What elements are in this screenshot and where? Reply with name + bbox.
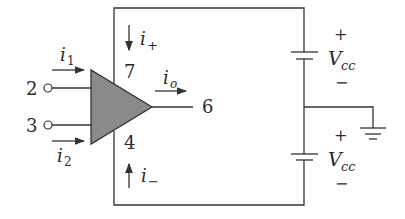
svg-text:i: i [141,165,147,186]
terminal-6-label: 6 [202,96,213,117]
svg-text:−: − [335,73,348,92]
battery-top-icon [291,52,318,59]
svg-text:1: 1 [67,54,75,68]
terminal-3-label: 3 [26,115,37,136]
svg-text:o: o [170,77,177,91]
svg-text:cc: cc [341,58,356,73]
svg-text:+: + [334,126,347,145]
label-vcc-top: + V cc − [328,25,356,92]
terminal-2-label: 2 [26,78,37,99]
svg-text:i: i [57,145,63,166]
label-i2: i 2 [57,145,72,169]
svg-text:i: i [60,44,66,65]
opamp-circuit-diagram: 2 3 7 4 6 i 1 i 2 i + i − i o + V cc − +… [0,0,405,219]
terminal-2-node [44,84,52,92]
battery-bottom-icon [291,154,318,160]
label-i1: i 1 [60,44,75,68]
svg-text:+: + [334,25,347,44]
label-i-minus: i − [141,165,159,189]
terminal-3-node [44,121,52,129]
svg-text:cc: cc [341,159,356,174]
svg-text:i: i [163,67,169,88]
svg-text:+: + [147,38,158,53]
terminal-4-label: 4 [124,132,135,153]
opamp-icon [91,70,152,144]
label-i-plus: i + [140,28,158,53]
ground-icon [360,128,386,139]
svg-text:i: i [140,28,146,49]
input-wires [44,84,91,129]
label-vcc-bottom: + V cc − [328,126,356,193]
svg-text:−: − [335,174,348,193]
terminal-7-label: 7 [124,61,135,82]
svg-text:2: 2 [64,155,72,169]
label-io: i o [163,67,177,91]
svg-text:−: − [148,174,159,189]
